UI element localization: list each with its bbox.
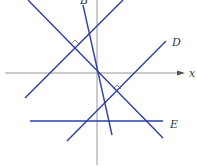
line-b xyxy=(83,5,112,135)
right-angle-marker-upper xyxy=(71,40,79,44)
label-e: E xyxy=(169,118,178,131)
x-axis-label: x xyxy=(189,67,196,80)
line-through-origin xyxy=(28,0,163,138)
x-axis-arrow-icon xyxy=(177,71,185,76)
line-diagram: x B D E xyxy=(0,0,197,167)
label-b: B xyxy=(79,0,88,7)
label-d: D xyxy=(171,36,181,49)
line-parallel-upper xyxy=(25,0,123,98)
